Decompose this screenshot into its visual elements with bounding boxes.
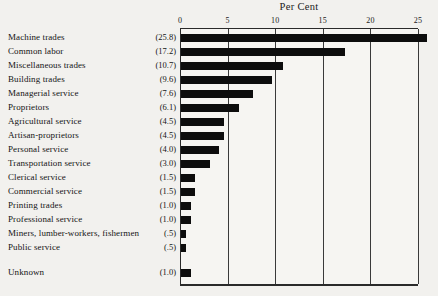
bar	[181, 202, 191, 210]
bar	[181, 48, 345, 56]
x-axis-tick-labels: 0510152025	[0, 16, 438, 28]
category-label: Common labor	[8, 45, 136, 58]
bar	[181, 146, 219, 154]
category-value-label: (1.0)	[136, 266, 176, 279]
chart-row: Building trades(9.6)	[0, 73, 438, 87]
chart-row: Professional service(1.0)	[0, 213, 438, 227]
bar	[181, 62, 283, 70]
bar-chart-figure: Per Cent 0510152025 Machine trades(25.8)…	[0, 0, 438, 296]
category-value-label: (6.1)	[136, 101, 176, 114]
category-value-label: (3.0)	[136, 157, 176, 170]
category-value-label: (10.7)	[136, 59, 176, 72]
category-label: Miners, lumber-workers, fishermen	[8, 227, 136, 240]
category-label: Personal service	[8, 143, 136, 156]
bar	[181, 76, 272, 84]
category-value-label: (9.6)	[136, 73, 176, 86]
category-value-label: (4.0)	[136, 143, 176, 156]
x-tick-label-5: 5	[225, 16, 229, 25]
chart-row: Transportation service(3.0)	[0, 157, 438, 171]
chart-row: Managerial service(7.6)	[0, 87, 438, 101]
category-value-label: (17.2)	[136, 45, 176, 58]
bar	[181, 269, 191, 277]
category-label: Professional service	[8, 213, 136, 226]
x-tick-label-10: 10	[271, 16, 279, 25]
category-value-label: (.5)	[136, 227, 176, 240]
x-tick-label-25: 25	[414, 16, 422, 25]
category-label: Machine trades	[8, 31, 136, 44]
chart-title: Per Cent	[180, 1, 418, 12]
bar	[181, 90, 253, 98]
category-label: Public service	[8, 241, 136, 254]
category-label: Printing trades	[8, 199, 136, 212]
chart-row: Machine trades(25.8)	[0, 31, 438, 45]
category-value-label: (7.6)	[136, 87, 176, 100]
category-value-label: (4.5)	[136, 115, 176, 128]
chart-row: Unknown(1.0)	[0, 266, 438, 280]
bar	[181, 34, 427, 42]
category-value-label: (1.5)	[136, 171, 176, 184]
x-tick-label-15: 15	[319, 16, 327, 25]
bar	[181, 160, 210, 168]
category-label: Transportation service	[8, 157, 136, 170]
category-label: Proprietors	[8, 101, 136, 114]
bar	[181, 244, 186, 252]
category-value-label: (.5)	[136, 241, 176, 254]
category-label: Managerial service	[8, 87, 136, 100]
bar	[181, 216, 191, 224]
chart-row: Personal service(4.0)	[0, 143, 438, 157]
plot-bottom-axis	[180, 285, 418, 286]
category-label: Clerical service	[8, 171, 136, 184]
chart-row: Clerical service(1.5)	[0, 171, 438, 185]
bar	[181, 104, 239, 112]
chart-row: Commercial service(1.5)	[0, 185, 438, 199]
chart-row: Artisan-proprietors(4.5)	[0, 129, 438, 143]
category-value-label: (4.5)	[136, 129, 176, 142]
x-tick-label-20: 20	[366, 16, 374, 25]
category-label: Commercial service	[8, 185, 136, 198]
bar	[181, 174, 195, 182]
category-label: Unknown	[8, 266, 136, 279]
chart-row: Miscellaneous trades(10.7)	[0, 59, 438, 73]
chart-row: Printing trades(1.0)	[0, 199, 438, 213]
bar	[181, 188, 195, 196]
x-tick-label-0: 0	[178, 16, 182, 25]
chart-rows: Machine trades(25.8)Common labor(17.2)Mi…	[0, 28, 438, 285]
chart-row: Common labor(17.2)	[0, 45, 438, 59]
chart-row: Public service(.5)	[0, 241, 438, 255]
category-value-label: (1.0)	[136, 199, 176, 212]
bar	[181, 132, 224, 140]
category-value-label: (1.0)	[136, 213, 176, 226]
category-label: Agricultural service	[8, 115, 136, 128]
bar	[181, 118, 224, 126]
category-label: Building trades	[8, 73, 136, 86]
category-value-label: (1.5)	[136, 185, 176, 198]
category-label: Miscellaneous trades	[8, 59, 136, 72]
category-value-label: (25.8)	[136, 31, 176, 44]
category-label: Artisan-proprietors	[8, 129, 136, 142]
bar	[181, 230, 186, 238]
chart-row: Proprietors(6.1)	[0, 101, 438, 115]
chart-row: Agricultural service(4.5)	[0, 115, 438, 129]
chart-row: Miners, lumber-workers, fishermen(.5)	[0, 227, 438, 241]
